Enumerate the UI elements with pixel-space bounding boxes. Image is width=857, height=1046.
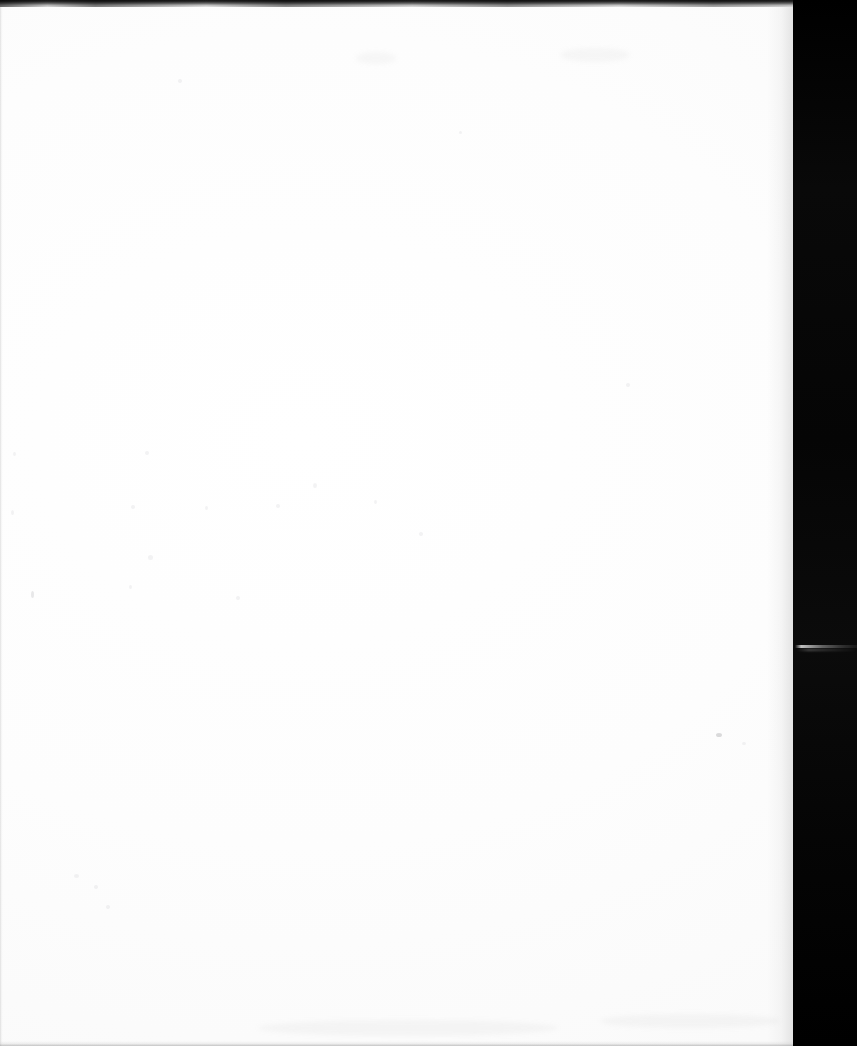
page-left-edge	[0, 0, 3, 1046]
scanned-document-viewport	[0, 0, 857, 1046]
scanner-backdrop-sheen	[787, 0, 857, 1046]
scan-smudge	[560, 48, 630, 62]
dust-speck	[74, 874, 79, 878]
page-sheet	[0, 0, 793, 1046]
dust-speck	[276, 504, 280, 508]
dust-speck	[11, 510, 14, 515]
dust-speck	[236, 596, 240, 600]
dust-speck	[178, 79, 182, 83]
dust-speck	[131, 505, 135, 509]
scan-smudge	[600, 1014, 780, 1028]
scan-top-edge-mottle	[0, 0, 793, 7]
dust-speck	[205, 506, 208, 510]
dust-speck	[716, 733, 722, 737]
scan-smudge	[356, 52, 396, 64]
dust-speck	[106, 905, 110, 909]
dust-speck	[148, 555, 153, 560]
dust-speck	[145, 451, 149, 455]
scanner-light-streak-halo	[797, 649, 855, 651]
dust-speck	[419, 532, 423, 536]
dust-speck	[459, 131, 462, 134]
scan-bottom-edge	[0, 1041, 793, 1046]
dust-speck	[31, 591, 34, 598]
dust-speck	[626, 383, 630, 387]
page-right-gutter-shade	[767, 0, 793, 1046]
dust-speck	[129, 585, 132, 589]
dust-speck	[13, 452, 16, 456]
scanner-light-streak	[795, 645, 857, 648]
dust-speck	[374, 500, 377, 504]
dust-speck	[94, 885, 98, 889]
dust-speck	[313, 483, 317, 488]
scan-smudge	[258, 1020, 558, 1036]
dust-speck	[742, 742, 746, 745]
